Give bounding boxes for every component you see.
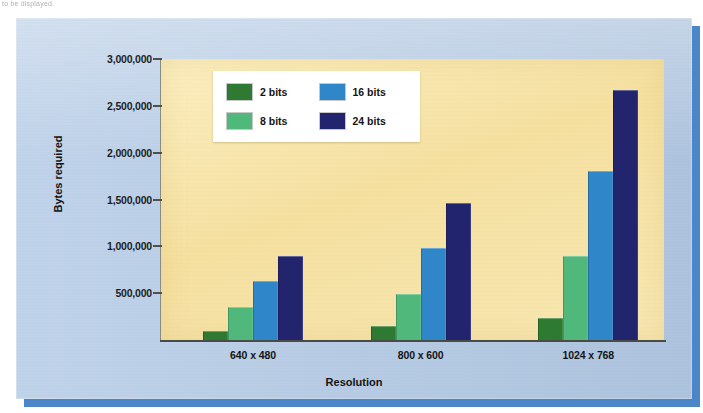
legend-grid: 2 bits16 bits8 bits24 bits	[213, 71, 420, 142]
bar-1024x768-16-bits	[588, 171, 613, 340]
y-tick-label-500000: 500,000	[68, 287, 152, 299]
bar-640x480-2-bits	[203, 331, 228, 340]
legend-item-16-bits: 16 bits	[320, 84, 413, 100]
x-tick-label-2: 1024 x 768	[563, 349, 615, 361]
bar-1024x768-8-bits	[563, 256, 588, 340]
figure-card: Bytes required 500,0001,000,0001,500,000…	[16, 18, 692, 399]
chart-legend: 2 bits16 bits8 bits24 bits	[213, 71, 420, 142]
legend-swatch-16-bits	[320, 84, 345, 100]
y-tick-label-1000000: 1,000,000	[68, 240, 152, 252]
legend-label-2-bits: 2 bits	[260, 86, 287, 98]
bar-640x480-16-bits	[253, 281, 278, 340]
y-tick-label-2500000: 2,500,000	[68, 100, 152, 112]
bar-1024x768-24-bits	[613, 90, 638, 340]
x-axis-line	[160, 340, 666, 342]
y-tick-mark-1500000	[153, 199, 162, 201]
bar-800x600-8-bits	[396, 294, 421, 340]
bar-1024x768-2-bits	[538, 318, 563, 340]
x-tick-label-1: 800 x 600	[398, 349, 444, 361]
y-axis-title: Bytes required	[52, 114, 64, 234]
legend-label-8-bits: 8 bits	[260, 115, 287, 127]
y-tick-mark-1000000	[153, 245, 162, 247]
legend-label-24-bits: 24 bits	[353, 115, 386, 127]
legend-label-16-bits: 16 bits	[353, 86, 386, 98]
legend-swatch-2-bits	[227, 84, 252, 100]
y-tick-mark-2500000	[153, 105, 162, 107]
legend-swatch-24-bits	[320, 113, 345, 129]
bar-640x480-8-bits	[228, 307, 253, 340]
legend-swatch-8-bits	[227, 113, 252, 129]
bar-800x600-24-bits	[446, 203, 471, 340]
y-tick-label-3000000: 3,000,000	[68, 53, 152, 65]
legend-item-8-bits: 8 bits	[227, 113, 320, 129]
page-text-fragment: to be displayed.	[2, 0, 122, 9]
bar-800x600-2-bits	[371, 326, 396, 340]
legend-item-24-bits: 24 bits	[320, 113, 413, 129]
bar-640x480-24-bits	[278, 256, 303, 340]
y-axis-tick-labels: 500,0001,000,0001,500,0002,000,0002,500,…	[64, 18, 152, 399]
y-tick-label-1500000: 1,500,000	[68, 194, 152, 206]
y-tick-mark-2000000	[153, 152, 162, 154]
bar-800x600-16-bits	[421, 248, 446, 340]
y-tick-mark-3000000	[153, 58, 162, 60]
y-tick-label-2000000: 2,000,000	[68, 147, 152, 159]
y-tick-mark-500000	[153, 292, 162, 294]
x-axis-title: Resolution	[16, 376, 692, 388]
legend-item-2-bits: 2 bits	[227, 84, 320, 100]
x-tick-label-0: 640 x 480	[230, 349, 276, 361]
